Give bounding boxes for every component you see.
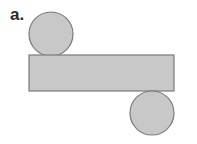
- bottom-circle: [130, 91, 174, 135]
- cylinder-net-diagram: [0, 0, 197, 144]
- top-circle: [29, 12, 73, 56]
- lateral-rectangle: [29, 55, 174, 91]
